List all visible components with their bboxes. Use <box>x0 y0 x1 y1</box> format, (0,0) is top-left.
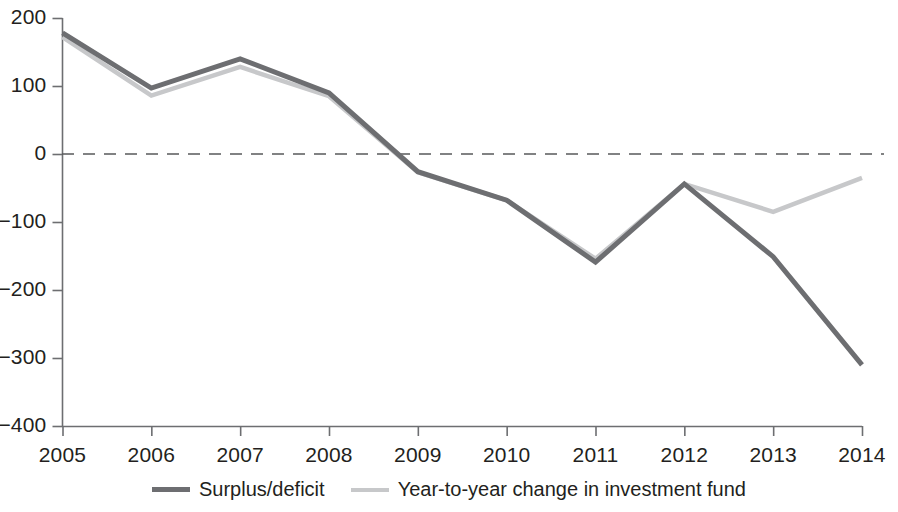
y-axis-tick-label: −200 <box>0 277 47 301</box>
legend-label-year-to-year-change: Year-to-year change in investment fund <box>398 478 746 501</box>
series-line-surplus-deficit <box>63 33 863 365</box>
x-axis-tick-label: 2007 <box>200 443 280 467</box>
legend-swatch-icon-surplus-deficit <box>152 487 190 492</box>
x-axis-tick-label: 2006 <box>111 443 191 467</box>
x-axis-tick-label: 2014 <box>822 443 898 467</box>
x-axis-tick-label: 2009 <box>378 443 458 467</box>
legend-swatch-icon-year-to-year-change <box>351 488 389 492</box>
y-axis-tick-label: −100 <box>0 209 47 233</box>
x-axis-tick-label: 2012 <box>644 443 724 467</box>
line-chart: 2001000−100−200−300−400 2005200620072008… <box>0 0 898 512</box>
x-axis-tick-label: 2011 <box>556 443 636 467</box>
series-line-year-to-year-change <box>63 37 863 259</box>
y-axis-tick-label: −300 <box>0 345 47 369</box>
x-axis-tick-label: 2005 <box>23 443 103 467</box>
legend-item-year-to-year-change: Year-to-year change in investment fund <box>351 478 746 501</box>
y-axis-tick-label: 100 <box>11 73 47 97</box>
x-axis-tick-label: 2008 <box>289 443 369 467</box>
legend-item-surplus-deficit: Surplus/deficit <box>152 478 325 501</box>
y-axis-tick-label: −400 <box>0 413 47 437</box>
legend-label-surplus-deficit: Surplus/deficit <box>199 478 325 501</box>
x-axis-tick-label: 2013 <box>733 443 813 467</box>
y-axis-ticks <box>53 19 63 427</box>
x-axis-ticks <box>63 426 863 436</box>
y-axis-tick-label: 200 <box>11 5 47 29</box>
chart-legend: Surplus/deficit Year-to-year change in i… <box>0 478 898 501</box>
y-axis-tick-label: 0 <box>35 141 47 165</box>
plot-area <box>0 0 898 512</box>
x-axis-tick-label: 2010 <box>467 443 547 467</box>
